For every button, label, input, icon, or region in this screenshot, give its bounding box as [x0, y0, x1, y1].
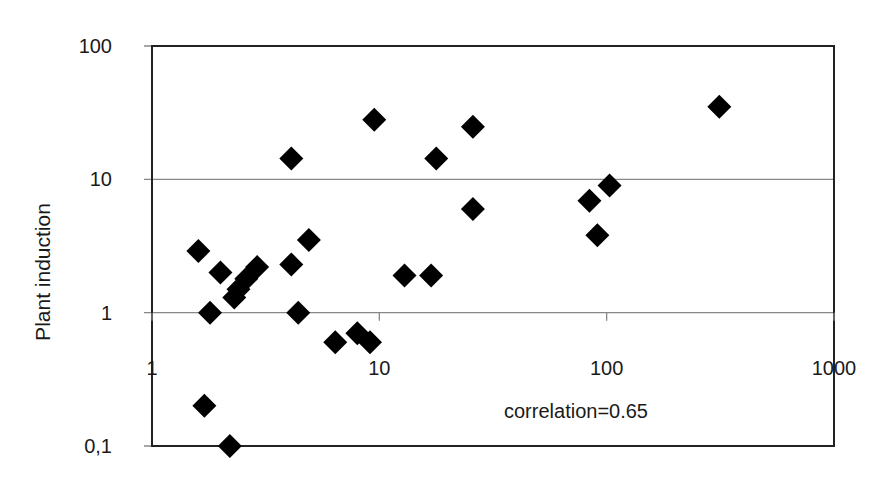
diamond-marker [362, 108, 386, 132]
diamond-marker [192, 394, 216, 418]
y-tick-label: 100 [79, 35, 112, 57]
diamond-marker [198, 301, 222, 325]
x-tick-label: 1000 [812, 357, 857, 379]
x-axis-ticks [152, 313, 834, 321]
plot-area-frame [152, 46, 834, 446]
y-tick-label: 10 [90, 168, 112, 190]
y-tick-label: 0,1 [84, 435, 112, 457]
diamond-marker [707, 95, 731, 119]
data-points [186, 95, 731, 458]
y-tick-label: 1 [101, 302, 112, 324]
diamond-marker [208, 261, 232, 285]
diamond-marker [323, 330, 347, 354]
diamond-marker [577, 189, 601, 213]
diamond-marker [461, 115, 485, 139]
scatter-chart: 0,1110100 1101001000 Plant induction cor… [0, 0, 889, 484]
diamond-marker [598, 173, 622, 197]
diamond-marker [186, 239, 210, 263]
diamond-marker [286, 301, 310, 325]
diamond-marker [419, 263, 443, 287]
diamond-marker [218, 434, 242, 458]
y-axis-title: Plant induction [31, 203, 54, 341]
diamond-marker [461, 197, 485, 221]
x-tick-label: 1 [146, 357, 157, 379]
x-tick-label: 10 [368, 357, 390, 379]
y-axis-tick-labels: 0,1110100 [79, 35, 112, 457]
x-tick-label: 100 [590, 357, 623, 379]
x-axis-tick-labels: 1101001000 [146, 357, 856, 379]
correlation-annotation: correlation=0.65 [504, 400, 648, 422]
diamond-marker [392, 263, 416, 287]
diamond-marker [279, 147, 303, 171]
diamond-marker [297, 228, 321, 252]
diamond-marker [424, 147, 448, 171]
diamond-marker [279, 252, 303, 276]
diamond-marker [585, 223, 609, 247]
